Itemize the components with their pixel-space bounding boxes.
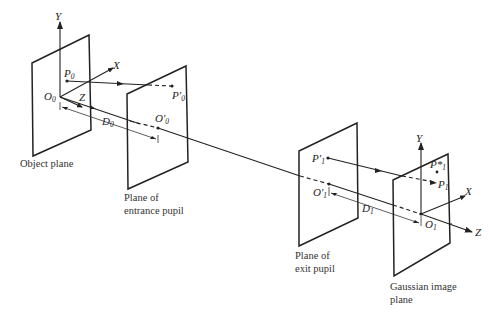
x-axis-image xyxy=(421,196,465,214)
label-d0: D0 xyxy=(101,115,114,129)
label-y-image: Y xyxy=(416,132,424,144)
optical-axis-dashed-image xyxy=(393,205,421,214)
label-d1: D1 xyxy=(361,202,374,216)
label-o1: O1 xyxy=(425,218,437,232)
label-x-object: X xyxy=(112,59,121,71)
ray-p0-dashed xyxy=(148,85,171,86)
optical-system-diagram: Y X Z P0 O0 P′0 O′0 D0 P′1 O′1 D1 Y X Z … xyxy=(0,0,489,318)
point-o0-prime xyxy=(156,126,159,129)
ray-p1 xyxy=(328,158,402,176)
optical-axis-dashed-exit xyxy=(300,176,329,184)
caption-exit-pupil-line1: Plane of xyxy=(295,250,330,261)
label-p1: P1 xyxy=(437,178,448,192)
label-p1-prime: P′1 xyxy=(311,152,325,166)
point-o1-prime xyxy=(327,182,330,185)
caption-object-plane: Object plane xyxy=(20,158,74,169)
caption-exit-pupil-line2: exit pupil xyxy=(295,263,335,274)
label-z-object: Z xyxy=(79,91,86,103)
label-o1-prime: O′1 xyxy=(313,186,327,200)
ray-p0 xyxy=(67,81,148,85)
point-p0-prime xyxy=(170,84,173,87)
point-o1 xyxy=(419,212,422,215)
label-z-image: Z xyxy=(475,226,482,238)
caption-image-plane-line1: Gaussian image xyxy=(390,281,457,292)
label-o0: O0 xyxy=(44,90,56,104)
label-o0-prime: O′0 xyxy=(155,112,169,126)
point-p1-star xyxy=(436,171,439,174)
ray-arrow-icon xyxy=(430,180,437,185)
d1-dimension-line xyxy=(331,193,419,223)
label-p1-star: P*1 xyxy=(429,158,446,172)
label-p0: P0 xyxy=(63,67,75,81)
caption-entrance-pupil-line1: Plane of xyxy=(124,192,159,203)
caption-image-plane-line2: plane xyxy=(390,294,413,305)
ray-p1-dashed xyxy=(402,176,434,182)
label-x-image: X xyxy=(464,185,473,197)
label-p0-prime: P′0 xyxy=(171,89,185,103)
label-y-object: Y xyxy=(55,10,63,22)
caption-entrance-pupil-line2: entrance pupil xyxy=(124,205,184,216)
optical-axis-image xyxy=(329,184,393,205)
optical-axis-mid xyxy=(158,128,300,176)
